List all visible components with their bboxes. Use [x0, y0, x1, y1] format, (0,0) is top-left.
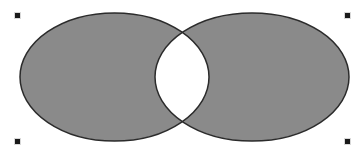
selection-handle-top-left[interactable]	[15, 13, 20, 18]
xor-ellipses-shape[interactable]	[20, 13, 349, 141]
selection-handle-bottom-right[interactable]	[345, 139, 350, 144]
selection-handle-bottom-left[interactable]	[15, 139, 20, 144]
venn-diagram[interactable]	[0, 0, 361, 155]
selection-handle-top-right[interactable]	[345, 13, 350, 18]
drawing-canvas	[0, 0, 361, 155]
